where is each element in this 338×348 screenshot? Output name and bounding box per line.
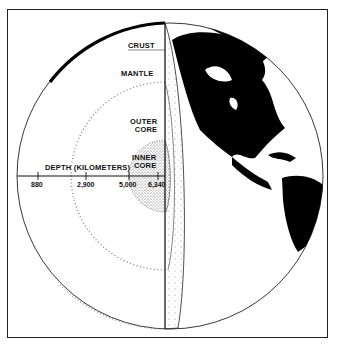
tick-label-5000: 5,000 xyxy=(119,181,137,188)
label-inner-core: INNER CORE xyxy=(132,154,156,170)
tick-label-2900: 2,900 xyxy=(77,181,95,188)
label-outer-core-line2: CORE xyxy=(130,126,157,134)
tick-label-880: 880 xyxy=(31,181,43,188)
label-outer-core: OUTER CORE xyxy=(130,118,157,134)
label-crust: CRUST xyxy=(128,42,155,50)
label-inner-core-line2: CORE xyxy=(132,162,156,170)
depth-axis-title: DEPTH (KILOMETERS) xyxy=(45,164,130,172)
earth-cutaway-diagram xyxy=(0,0,338,348)
label-mantle: MANTLE xyxy=(121,70,153,78)
tick-label-6340: 6,340 xyxy=(148,181,166,188)
